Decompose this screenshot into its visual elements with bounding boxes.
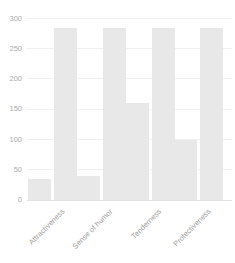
x-category-label-tenderness: Tenderness: [130, 207, 164, 241]
bar-protectiveness-series-1: [174, 140, 197, 200]
plot-area: [27, 19, 232, 200]
y-tick-label-200: 200: [0, 75, 22, 83]
bar-tenderness-series-2: [152, 28, 175, 200]
gridline-300: [27, 18, 232, 19]
x-category-label-attractiveness: Attractiveness: [27, 207, 67, 247]
bar-sense-of-humor-series-2: [103, 28, 126, 200]
y-tick-label-50: 50: [0, 166, 22, 174]
bar-tenderness-series-1: [126, 103, 149, 200]
bar-protectiveness-series-2: [200, 28, 223, 200]
x-category-label-sense-of-humor: Sense of humor: [71, 207, 115, 251]
x-category-label-protectiveness: Protectiveness: [171, 207, 212, 248]
y-tick-label-150: 150: [0, 105, 22, 113]
bar-sense-of-humor-series-1: [77, 176, 100, 200]
bar-attractiveness-series-1: [28, 179, 51, 200]
y-tick-label-250: 250: [0, 45, 22, 53]
y-tick-label-300: 300: [0, 15, 22, 23]
bar-attractiveness-series-2: [54, 28, 77, 200]
y-tick-label-100: 100: [0, 136, 22, 144]
x-axis-line: [27, 200, 232, 201]
y-tick-label-0: 0: [0, 196, 22, 204]
bar-chart: 050100150200250300 AttractivenessSense o…: [0, 0, 235, 263]
